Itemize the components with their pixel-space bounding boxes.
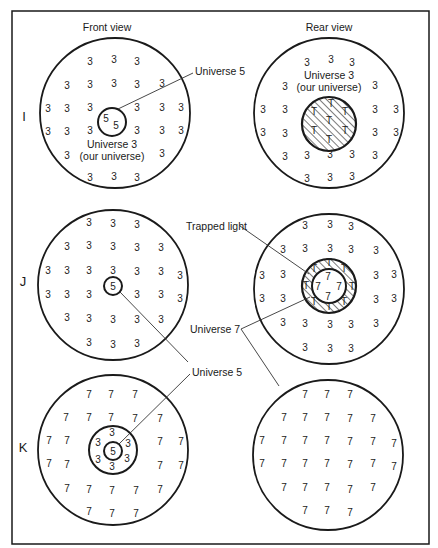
svg-text:3: 3 <box>64 80 70 91</box>
universe3-label-front-line2: (our universe) <box>80 150 145 162</box>
svg-text:7: 7 <box>63 412 69 423</box>
svg-text:7: 7 <box>64 483 70 494</box>
svg-text:3: 3 <box>177 270 183 281</box>
svg-text:7: 7 <box>132 413 138 424</box>
svg-text:7: 7 <box>86 484 92 495</box>
svg-text:3: 3 <box>178 102 184 113</box>
universe3-label-front-line1: Universe 3 <box>87 138 137 150</box>
rear-view-header: Rear view <box>306 21 353 33</box>
svg-text:7: 7 <box>324 435 330 446</box>
svg-text:3: 3 <box>134 338 140 349</box>
svg-text:7: 7 <box>109 485 115 496</box>
svg-text:3: 3 <box>134 125 140 136</box>
svg-text:3: 3 <box>64 265 70 276</box>
svg-text:3: 3 <box>304 173 310 184</box>
svg-text:3: 3 <box>280 244 286 255</box>
svg-text:T: T <box>328 98 334 109</box>
svg-text:5: 5 <box>110 446 116 457</box>
svg-text:7: 7 <box>259 458 265 469</box>
svg-text:7: 7 <box>370 482 376 493</box>
universe3-markers: 3 3 3 3 3 3 3 3 3 3 3 3 3 3 3 3 3 3 3 3 … <box>45 54 184 183</box>
universe5-label-I: Universe 5 <box>195 65 245 77</box>
svg-text:3: 3 <box>259 270 265 281</box>
leader-trapped-light <box>240 226 309 274</box>
svg-text:3: 3 <box>110 339 116 350</box>
svg-text:3: 3 <box>282 104 288 115</box>
svg-text:3: 3 <box>125 438 131 449</box>
svg-text:7: 7 <box>157 436 163 447</box>
universe3-label-rear-line2: (our universe) <box>297 81 362 93</box>
svg-text:3: 3 <box>158 266 164 277</box>
svg-text:T: T <box>303 280 309 291</box>
svg-text:3: 3 <box>64 103 70 114</box>
svg-text:3: 3 <box>45 126 51 137</box>
svg-text:3: 3 <box>158 242 164 253</box>
row-I-front: 3 3 3 3 3 3 3 3 3 3 3 3 3 3 3 3 3 3 3 3 … <box>40 38 190 188</box>
svg-text:3: 3 <box>110 241 116 252</box>
svg-text:3: 3 <box>86 313 92 324</box>
svg-text:3: 3 <box>349 171 355 182</box>
svg-text:7: 7 <box>86 412 92 423</box>
svg-text:3: 3 <box>86 217 92 228</box>
svg-text:3: 3 <box>373 270 379 281</box>
svg-text:3: 3 <box>134 266 140 277</box>
svg-text:5: 5 <box>103 113 109 124</box>
svg-text:7: 7 <box>46 458 52 469</box>
universe7-label: Universe 7 <box>190 323 240 335</box>
svg-text:7: 7 <box>347 484 353 495</box>
svg-text:3: 3 <box>110 314 116 325</box>
svg-text:3: 3 <box>178 125 184 136</box>
svg-text:3: 3 <box>373 294 379 305</box>
svg-text:7: 7 <box>370 458 376 469</box>
svg-text:3: 3 <box>373 245 379 256</box>
svg-text:3: 3 <box>372 104 378 115</box>
row-label-K: K <box>19 440 28 455</box>
svg-text:3: 3 <box>373 318 379 329</box>
svg-text:3: 3 <box>64 289 70 300</box>
svg-text:3: 3 <box>87 125 93 136</box>
svg-text:3: 3 <box>87 56 93 67</box>
svg-text:T: T <box>342 106 348 117</box>
svg-text:3: 3 <box>302 318 308 329</box>
row-label-J: J <box>20 274 27 289</box>
svg-text:3: 3 <box>159 102 165 113</box>
svg-text:7: 7 <box>302 435 308 446</box>
universe3-label-rear-line1: Universe 3 <box>304 69 354 81</box>
svg-text:3: 3 <box>64 312 70 323</box>
svg-text:7: 7 <box>281 412 287 423</box>
svg-text:7: 7 <box>157 413 163 424</box>
svg-text:3: 3 <box>110 218 116 229</box>
universe5-bubble-front-I <box>98 108 126 136</box>
svg-text:3: 3 <box>87 102 93 113</box>
svg-text:7: 7 <box>133 485 139 496</box>
svg-text:3: 3 <box>134 56 140 67</box>
svg-text:3: 3 <box>391 293 397 304</box>
svg-text:3: 3 <box>109 461 115 472</box>
svg-text:3: 3 <box>64 241 70 252</box>
svg-text:3: 3 <box>282 81 288 92</box>
svg-text:T: T <box>349 281 355 292</box>
svg-text:7: 7 <box>391 461 397 472</box>
svg-text:7: 7 <box>108 412 114 423</box>
svg-text:3: 3 <box>109 427 115 438</box>
svg-text:3: 3 <box>134 289 140 300</box>
svg-text:7: 7 <box>370 436 376 447</box>
svg-text:7: 7 <box>86 506 92 517</box>
svg-text:3: 3 <box>87 79 93 90</box>
svg-text:T: T <box>326 257 332 268</box>
svg-text:7: 7 <box>302 482 308 493</box>
svg-text:5: 5 <box>113 120 119 131</box>
row-K-rear: 7 7 7 7 7 7 7 7 7 7 7 7 7 7 7 7 7 7 7 7 … <box>253 380 403 530</box>
svg-text:3: 3 <box>393 104 399 115</box>
svg-text:3: 3 <box>280 317 286 328</box>
svg-text:3: 3 <box>110 265 116 276</box>
svg-text:3: 3 <box>134 79 140 90</box>
svg-text:3: 3 <box>349 149 355 160</box>
svg-text:7: 7 <box>281 458 287 469</box>
svg-text:3: 3 <box>327 219 333 230</box>
svg-text:7: 7 <box>108 389 114 400</box>
svg-text:7: 7 <box>133 508 139 519</box>
svg-text:7: 7 <box>370 413 376 424</box>
svg-text:3: 3 <box>348 221 354 232</box>
svg-text:3: 3 <box>302 342 308 353</box>
